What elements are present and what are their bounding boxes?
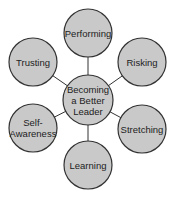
center-node-label: Leader bbox=[73, 106, 103, 117]
center-node-label: a Better bbox=[71, 95, 104, 106]
node-self-awareness-label: Self- bbox=[23, 117, 43, 128]
center-node-label: Becoming bbox=[67, 84, 109, 95]
leadership-diagram: PerformingRiskingStretchingLearningSelf-… bbox=[0, 0, 176, 199]
node-learning: Learning bbox=[64, 141, 112, 189]
node-stretching-label: Stretching bbox=[121, 124, 164, 135]
node-stretching: Stretching bbox=[118, 105, 166, 153]
nodes: PerformingRiskingStretchingLearningSelf-… bbox=[9, 9, 166, 189]
node-trusting-label: Trusting bbox=[16, 57, 50, 68]
node-self-awareness: Self-Awareness bbox=[9, 104, 57, 152]
node-learning-label: Learning bbox=[70, 160, 107, 171]
node-trusting: Trusting bbox=[9, 38, 57, 86]
node-self-awareness-label: Awareness bbox=[10, 128, 57, 139]
node-risking: Risking bbox=[118, 38, 166, 86]
center-node: Becominga BetterLeader bbox=[63, 75, 113, 125]
node-performing-label: Performing bbox=[65, 28, 111, 39]
node-risking-label: Risking bbox=[126, 57, 157, 68]
node-performing: Performing bbox=[64, 9, 112, 57]
